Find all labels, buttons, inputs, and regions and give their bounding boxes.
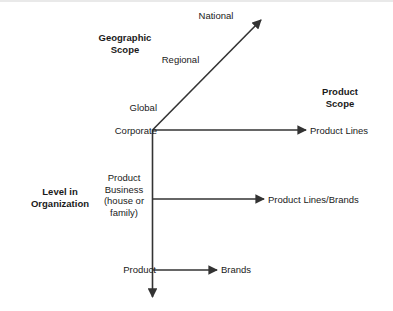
product-scope-product-lines: Product Lines — [310, 125, 393, 137]
diagram-canvas: Geographic Scope Product Scope Level in … — [0, 0, 393, 311]
product-scope-brands: Brands — [221, 264, 271, 276]
geographic-tick-regional: Regional — [152, 54, 209, 66]
organization-level-product: Product — [92, 264, 156, 276]
product-scope-product-lines-brands: Product Lines/Brands — [268, 194, 388, 206]
geographic-tick-national: National — [183, 10, 249, 22]
diagram-axes-svg — [0, 0, 393, 311]
organization-level-product-business: Product Business (house or family) — [92, 172, 156, 218]
geographic-tick-global: Global — [96, 102, 157, 114]
geographic-scope-axis-title: Geographic Scope — [78, 32, 172, 55]
organization-level-corporate: Corporate — [86, 125, 157, 137]
product-scope-axis-title: Product Scope — [300, 86, 380, 109]
